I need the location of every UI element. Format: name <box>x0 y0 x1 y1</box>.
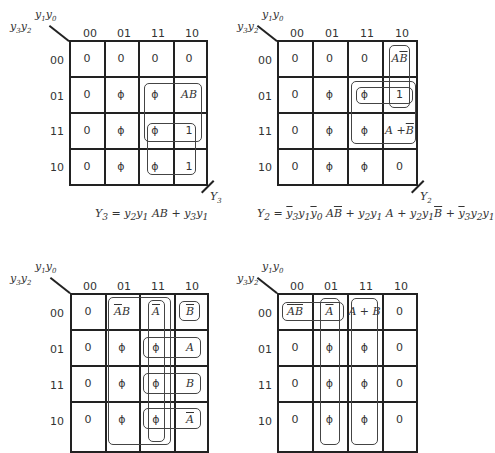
row-header: 11 <box>250 379 272 392</box>
col-header: 00 <box>280 280 314 293</box>
row-header: 10 <box>250 415 272 428</box>
cell: 0 <box>278 402 312 437</box>
cell: 0 <box>382 402 417 437</box>
row-var-label: y3y2 <box>237 272 258 287</box>
cell: 0 <box>382 366 417 401</box>
row-header: 00 <box>250 307 272 320</box>
row-header: 01 <box>250 343 272 356</box>
col-var-label: y1y0 <box>262 260 283 275</box>
grouping-loop <box>351 298 378 445</box>
col-header: 10 <box>384 280 418 293</box>
cell: 0 <box>278 366 312 401</box>
cell: 0 <box>382 294 417 329</box>
cell: 0 <box>382 330 417 365</box>
corner-diagonal <box>257 277 278 294</box>
grouping-loop <box>320 298 340 445</box>
cell: 0 <box>278 330 312 365</box>
col-header: 01 <box>314 280 348 293</box>
col-header: 11 <box>349 280 383 293</box>
